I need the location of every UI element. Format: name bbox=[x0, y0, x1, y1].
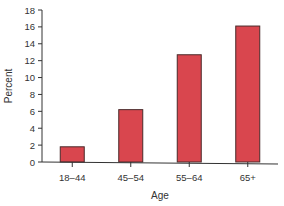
x-tick-label: 65+ bbox=[240, 172, 257, 183]
y-axis-title: Percent bbox=[3, 69, 14, 104]
bars bbox=[60, 26, 260, 162]
bar-0 bbox=[60, 147, 84, 162]
y-tick-label: 2 bbox=[30, 140, 35, 151]
bar-2 bbox=[177, 55, 201, 162]
y-tick-label: 14 bbox=[24, 38, 35, 49]
bar-chart: 024681012141618 18–4445–5455–6465+ Perce… bbox=[0, 0, 284, 206]
y-tick-label: 6 bbox=[30, 106, 35, 117]
x-tick-label: 45–54 bbox=[118, 172, 144, 183]
y-tick-label: 18 bbox=[24, 5, 35, 16]
x-axis: 18–4445–5455–6465+ bbox=[42, 162, 278, 183]
y-tick-label: 10 bbox=[24, 72, 35, 83]
y-tick-label: 12 bbox=[24, 55, 35, 66]
bar-1 bbox=[119, 110, 143, 162]
y-axis: 024681012141618 bbox=[24, 5, 42, 168]
bar-3 bbox=[236, 26, 260, 162]
x-tick-label: 55–64 bbox=[176, 172, 202, 183]
x-tick-label: 18–44 bbox=[59, 172, 85, 183]
y-tick-label: 0 bbox=[30, 157, 35, 168]
x-axis-title: Age bbox=[151, 190, 169, 201]
y-tick-label: 4 bbox=[30, 123, 35, 134]
y-tick-label: 8 bbox=[30, 89, 35, 100]
y-tick-label: 16 bbox=[24, 21, 35, 32]
